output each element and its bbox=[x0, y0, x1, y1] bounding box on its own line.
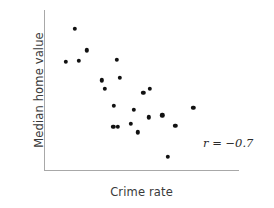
data-point bbox=[141, 90, 145, 94]
data-point bbox=[84, 48, 88, 52]
data-point bbox=[72, 27, 76, 31]
data-point bbox=[132, 108, 136, 112]
data-point bbox=[112, 104, 116, 108]
correlation-annotation: r = −0.7 bbox=[203, 136, 253, 150]
data-point bbox=[135, 130, 139, 134]
data-point bbox=[129, 122, 133, 126]
data-point bbox=[115, 57, 119, 61]
scatterplot-figure: Median home value Crime rate r = −0.7 bbox=[0, 0, 274, 208]
data-point bbox=[166, 154, 170, 158]
data-point bbox=[173, 123, 177, 127]
data-point bbox=[160, 113, 164, 117]
x-axis-line bbox=[44, 170, 239, 171]
data-point bbox=[147, 115, 151, 119]
data-point bbox=[116, 124, 120, 128]
y-axis-label: Median home value bbox=[29, 10, 49, 170]
data-point bbox=[102, 87, 106, 91]
x-axis-label: Crime rate bbox=[44, 185, 239, 199]
data-point bbox=[64, 59, 68, 63]
data-point bbox=[118, 75, 122, 79]
data-point bbox=[148, 87, 152, 91]
data-point bbox=[100, 78, 104, 82]
data-point bbox=[191, 106, 195, 110]
data-point bbox=[77, 58, 81, 62]
